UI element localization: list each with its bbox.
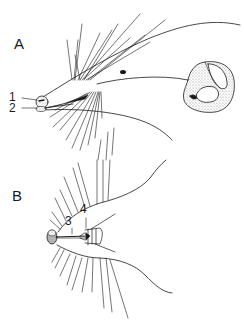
- head-lower-contour-b: [57, 245, 172, 293]
- panel-label-a: A: [14, 36, 24, 51]
- jaw-structure: [80, 214, 115, 252]
- panel-b-drawing: [47, 160, 172, 318]
- nose-pad: [36, 96, 48, 108]
- annotation-label-2: 2: [9, 102, 16, 114]
- eye-icon: [120, 70, 126, 74]
- annotation-label-3: 3: [65, 215, 72, 227]
- vibrissae-bottom: [98, 128, 114, 160]
- ear: [183, 62, 234, 113]
- scientific-figure: A 1 2 B 3 4: [0, 0, 244, 323]
- mouth-line: [97, 77, 188, 84]
- panel-a-drawing: [22, 14, 240, 160]
- leader-line-1: [22, 98, 37, 100]
- illustration-canvas: [0, 0, 244, 323]
- head-upper-contour-b: [58, 160, 166, 232]
- vibrissae-upper: [67, 14, 165, 80]
- vibrissae-upper-b: [50, 160, 110, 229]
- panel-label-b: B: [12, 188, 22, 203]
- vibrissae-lower-b: [52, 248, 128, 318]
- annotation-label-4: 4: [80, 203, 87, 215]
